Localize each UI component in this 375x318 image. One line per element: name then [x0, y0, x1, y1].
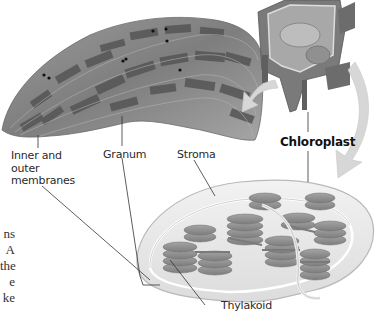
chloroplast-3d-illustration — [137, 180, 373, 302]
label-thylakoid: Thylakoid — [221, 300, 272, 313]
chloroplast-figure: Inner and outer membranes Granum Stroma … — [0, 0, 375, 318]
label-stroma: Stroma — [177, 149, 216, 162]
label-chloroplast: Chloroplast — [280, 136, 355, 149]
micrograph — [2, 17, 263, 140]
label-inner-outer-membranes: Inner and outer membranes — [11, 150, 75, 188]
truncated-body-text: ns A the e ke — [0, 226, 15, 306]
label-granum: Granum — [103, 149, 146, 162]
plant-cell-illustration — [258, 0, 355, 112]
